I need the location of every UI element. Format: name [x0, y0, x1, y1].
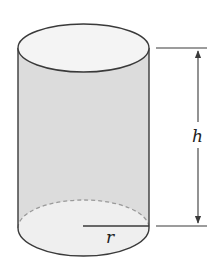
height-label: h — [192, 126, 203, 146]
cylinder-diagram: r h — [0, 0, 217, 268]
radius-label: r — [106, 227, 115, 247]
cylinder-top-cap — [18, 24, 149, 72]
